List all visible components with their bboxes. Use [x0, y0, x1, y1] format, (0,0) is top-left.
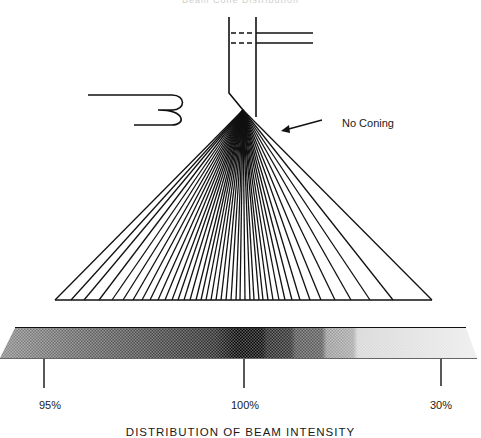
- nozzle-left-wall: [229, 17, 243, 110]
- marker-label-95: 95%: [39, 399, 61, 411]
- beam-ray: [243, 110, 370, 300]
- beam-ray: [112, 110, 243, 300]
- beam-ray: [165, 110, 243, 300]
- beam-ray: [243, 110, 321, 300]
- arrow-icon: [281, 120, 322, 133]
- no-coning-label: No Coning: [342, 117, 394, 129]
- intensity-markers: [44, 359, 441, 388]
- beam-ray: [243, 110, 393, 300]
- intensity-bar: [0, 328, 477, 359]
- beam-ray: [243, 110, 273, 300]
- beam-ray: [243, 110, 351, 300]
- beam-lines: [55, 110, 432, 300]
- nozzle: [229, 17, 313, 117]
- marker-label-100: 100%: [231, 399, 259, 411]
- page-header: Beam Cone Distribution: [182, 0, 299, 5]
- intensity-caption: DISTRIBUTION OF BEAM INTENSITY: [126, 426, 355, 438]
- hook-icon: [88, 95, 183, 125]
- marker-label-30: 30%: [430, 399, 452, 411]
